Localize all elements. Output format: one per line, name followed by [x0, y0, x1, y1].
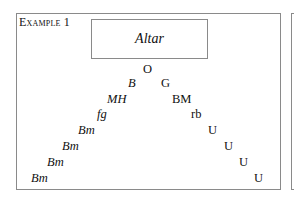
left-node-5: Bm — [62, 139, 79, 154]
right-node-1: G — [161, 76, 170, 91]
right-node-2: BM — [172, 92, 191, 107]
right-node-4: U — [208, 123, 217, 138]
left-node-7: Bm — [31, 171, 48, 186]
left-node-1: B — [128, 76, 136, 91]
adjacent-frame — [291, 13, 294, 190]
right-node-3: rb — [191, 107, 201, 122]
left-node-3: fg — [97, 107, 107, 122]
right-node-5: U — [224, 139, 233, 154]
left-node-6: Bm — [47, 155, 64, 170]
altar-box: Altar — [91, 19, 208, 59]
right-node-7: U — [254, 171, 263, 186]
left-node-2: MH — [107, 92, 126, 107]
right-node-6: U — [239, 155, 248, 170]
altar-label: Altar — [135, 31, 164, 47]
apex-node: O — [143, 62, 152, 77]
example-caption: Example 1 — [19, 15, 70, 30]
left-node-4: Bm — [78, 123, 95, 138]
